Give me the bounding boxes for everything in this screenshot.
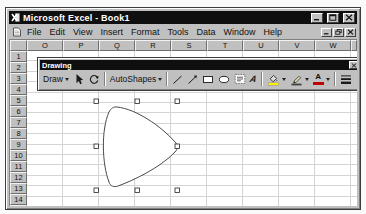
drawing-toolbar-titlebar[interactable]: Drawing — [40, 60, 357, 70]
oval-button[interactable] — [216, 71, 232, 87]
font-color-button[interactable]: A — [311, 71, 332, 87]
handle-top-right[interactable] — [175, 99, 179, 103]
minimize-button[interactable] — [311, 13, 323, 23]
handle-mid-left[interactable] — [94, 144, 98, 148]
rectangle-icon — [202, 74, 214, 85]
restore-icon — [335, 29, 342, 35]
line-style-icon — [340, 73, 352, 85]
workbook-minimize-button[interactable] — [321, 28, 332, 37]
line-style-button[interactable] — [338, 71, 354, 87]
menu-bar: File Edit View Insert Format Tools Data … — [9, 25, 357, 39]
menu-item-data[interactable]: Data — [192, 26, 219, 39]
close-icon — [345, 14, 353, 21]
select-pointer-icon — [73, 73, 84, 85]
dropdown-arrow-icon — [326, 78, 330, 81]
fill-color-button[interactable] — [265, 71, 288, 87]
workbook-close-button[interactable] — [345, 28, 356, 37]
menu-item-window[interactable]: Window — [219, 26, 259, 39]
title-bar: Microsoft Excel - Book1 — [9, 11, 357, 24]
select-objects-button[interactable] — [71, 71, 86, 87]
draw-menu-label: Draw — [43, 74, 63, 84]
rectangle-button[interactable] — [200, 71, 216, 87]
arrow-icon — [187, 74, 198, 85]
minimize-icon — [323, 29, 330, 35]
draw-menu-button[interactable]: Draw — [41, 71, 71, 87]
toolbar-separator — [334, 72, 336, 86]
screenshot-root: Microsoft Excel - Book1 File Edit View — [0, 0, 366, 214]
font-color-letter: A — [315, 73, 321, 81]
free-rotate-icon — [88, 73, 100, 85]
drawing-toolbar: Drawing Draw — [37, 57, 357, 91]
drawing-toolbar-buttons: Draw — [40, 70, 357, 88]
text-box-icon — [234, 73, 246, 85]
freeform-shape[interactable] — [103, 107, 177, 187]
dash-style-icon — [356, 73, 357, 85]
toolbar-separator — [104, 72, 106, 86]
line-color-icon — [290, 73, 303, 86]
free-rotate-button[interactable] — [86, 71, 102, 87]
line-button[interactable] — [170, 71, 185, 87]
menu-item-format[interactable]: Format — [127, 26, 164, 39]
wordart-icon: A — [249, 74, 258, 84]
autoshapes-menu-button[interactable]: AutoShapes — [108, 71, 164, 87]
oval-icon — [218, 74, 230, 85]
wordart-button[interactable]: A — [248, 71, 259, 87]
handle-bottom-center[interactable] — [135, 188, 139, 192]
close-icon — [351, 63, 357, 68]
minimize-icon — [313, 14, 321, 21]
handle-top-left[interactable] — [94, 99, 98, 103]
menu-item-help[interactable]: Help — [259, 26, 286, 39]
handle-top-center[interactable] — [135, 99, 139, 103]
close-icon — [347, 29, 354, 35]
workbook-menu-button[interactable] — [10, 27, 23, 38]
handle-bottom-left[interactable] — [94, 188, 98, 192]
text-box-button[interactable] — [232, 71, 248, 87]
worksheet: O P Q R S T U V W 1 2 3 4 5 6 7 8 9 — [9, 39, 357, 206]
dash-style-button[interactable] — [354, 71, 357, 87]
workbook-icon — [11, 27, 22, 37]
dropdown-arrow-icon — [158, 78, 162, 81]
window-title: Microsoft Excel - Book1 — [23, 13, 307, 23]
handle-mid-right[interactable] — [175, 144, 179, 148]
excel-window: Microsoft Excel - Book1 File Edit View — [5, 7, 361, 210]
workbook-restore-button[interactable] — [333, 28, 344, 37]
handle-bottom-right[interactable] — [175, 188, 179, 192]
line-icon — [172, 74, 183, 85]
excel-icon — [11, 13, 20, 22]
dropdown-arrow-icon — [305, 78, 309, 81]
dropdown-arrow-icon — [282, 78, 286, 81]
drawing-toolbar-close-button[interactable] — [349, 61, 357, 69]
font-color-swatch — [313, 82, 324, 85]
maximize-button[interactable] — [327, 13, 339, 23]
dropdown-arrow-icon — [65, 78, 69, 81]
toolbar-separator — [261, 72, 263, 86]
toolbar-separator — [166, 72, 168, 86]
menu-item-insert[interactable]: Insert — [96, 26, 127, 39]
autoshapes-label: AutoShapes — [110, 74, 156, 84]
menu-item-tools[interactable]: Tools — [163, 26, 192, 39]
menu-item-edit[interactable]: Edit — [46, 26, 70, 39]
line-color-button[interactable] — [288, 71, 311, 87]
font-color-icon: A — [313, 73, 324, 85]
drawing-toolbar-title: Drawing — [42, 61, 72, 70]
close-button[interactable] — [343, 13, 355, 23]
fill-color-icon — [267, 73, 280, 86]
maximize-icon — [329, 14, 337, 21]
menu-item-file[interactable]: File — [23, 26, 46, 39]
menu-item-view[interactable]: View — [69, 26, 96, 39]
arrow-button[interactable] — [185, 71, 200, 87]
